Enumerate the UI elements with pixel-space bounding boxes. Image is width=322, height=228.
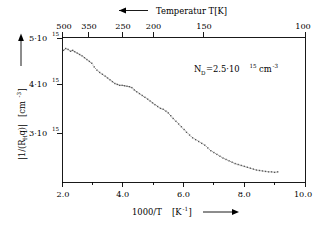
top-tick-label-250: 250 [115, 21, 131, 31]
data-point-interpolated [251, 168, 252, 169]
data-point-interpolated [113, 82, 114, 83]
data-point-interpolated [101, 73, 102, 74]
y-axis-unit-open: [cm [17, 101, 27, 117]
data-point-interpolated [264, 171, 265, 172]
data-point-interpolated [276, 172, 277, 173]
x-axis-unit-exponent: -1 [183, 206, 188, 212]
data-point [234, 163, 235, 164]
data-point-interpolated [128, 86, 129, 87]
data-point [213, 152, 214, 153]
data-point-interpolated [248, 167, 249, 168]
data-point [84, 57, 85, 58]
data-point [70, 51, 71, 52]
data-point-interpolated [182, 128, 183, 129]
data-point [175, 121, 176, 122]
data-point-interpolated [233, 162, 234, 163]
data-point [195, 139, 196, 140]
data-point-interpolated [130, 87, 131, 88]
y-axis-title-abs2: q)| [17, 124, 28, 135]
y-tick-exponent-4: 15 [52, 77, 60, 83]
data-point [147, 98, 148, 99]
data-point [237, 164, 238, 165]
data-point [89, 61, 90, 62]
data-point-interpolated [88, 60, 89, 61]
data-point [99, 72, 100, 73]
data-point-interpolated [221, 157, 222, 158]
data-point [86, 59, 87, 60]
data-point-interpolated [123, 85, 124, 86]
data-point-interpolated [138, 92, 139, 93]
data-point [216, 154, 217, 155]
data-point-interpolated [140, 94, 141, 95]
y-tick-mantissa-3: 3·10 [29, 128, 47, 138]
y-axis-title-abs: |1/(R [17, 139, 28, 160]
data-point-interpolated [133, 88, 134, 89]
data-point [247, 167, 248, 168]
data-point-interpolated [120, 85, 121, 86]
data-point-interpolated [267, 171, 268, 172]
data-point-interpolated [273, 172, 274, 173]
data-point [119, 85, 120, 86]
data-point-interpolated [73, 51, 74, 52]
data-point [183, 129, 184, 130]
data-point [219, 156, 220, 157]
data-point-interpolated [103, 75, 104, 76]
data-point-interpolated [116, 84, 117, 85]
data-point [192, 137, 193, 138]
data-point [157, 106, 158, 107]
data-point [181, 126, 182, 127]
data-point-interpolated [118, 84, 119, 85]
data-point-interpolated [83, 56, 84, 57]
data-point [256, 169, 257, 170]
data-point-interpolated [148, 100, 149, 101]
data-point [109, 79, 110, 80]
data-point [149, 100, 150, 101]
data-point-interpolated [111, 80, 112, 81]
data-point-interpolated [212, 151, 213, 152]
data-point [107, 77, 108, 78]
data-point [104, 75, 105, 76]
data-point [262, 170, 263, 171]
data-point-interpolated [169, 114, 170, 115]
data-point [271, 171, 272, 172]
annotation-doping-concentration: N D =2.5·10 15 cm -3 [194, 63, 278, 76]
top-tick-label-100: 100 [295, 21, 311, 31]
data-point-interpolated [108, 78, 109, 79]
data-point [198, 141, 199, 142]
data-point [91, 63, 92, 64]
data-point-interpolated [209, 149, 210, 150]
data-point-interpolated [236, 164, 237, 165]
data-point [207, 147, 208, 148]
data-point [259, 170, 260, 171]
data-point-interpolated [270, 171, 271, 172]
x-tick-label-2: 2.0 [56, 189, 69, 199]
data-point [76, 52, 77, 53]
top-tick-label-500: 500 [56, 21, 72, 31]
data-point-interpolated [242, 165, 243, 166]
x-tick-label-10: 10.0 [294, 189, 312, 199]
data-point-interpolated [153, 103, 154, 104]
data-point [65, 48, 66, 49]
data-point [144, 97, 145, 98]
data-point [139, 93, 140, 94]
data-point [265, 171, 266, 172]
data-point-interpolated [135, 90, 136, 91]
data-point-interpolated [218, 155, 219, 156]
data-point [204, 144, 205, 145]
data-point [222, 157, 223, 158]
data-point [201, 143, 202, 144]
data-point-interpolated [177, 122, 178, 123]
data-point-interpolated [151, 101, 152, 102]
data-point-interpolated [261, 170, 262, 171]
data-point [63, 50, 64, 51]
data-point [277, 171, 278, 172]
annotation-exponent: 15 [250, 63, 258, 69]
data-point [102, 74, 103, 75]
data-point-interpolated [191, 136, 192, 137]
chart-background [0, 0, 322, 228]
data-point-interpolated [69, 50, 70, 51]
x-tick-label-6: 6.0 [177, 189, 190, 199]
data-point [225, 159, 226, 160]
data-point [79, 54, 80, 55]
data-point-interpolated [159, 107, 160, 108]
